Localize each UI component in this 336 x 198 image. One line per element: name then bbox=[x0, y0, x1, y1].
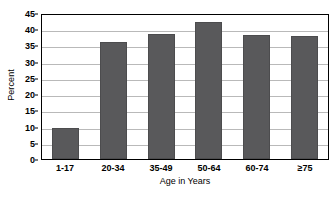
x-axis-tick-label: 35-49 bbox=[137, 162, 185, 176]
y-axis-title-text: Percent bbox=[6, 69, 16, 101]
y-axis-tick-mark bbox=[35, 143, 38, 144]
bar-slot bbox=[185, 15, 233, 159]
bar-slot bbox=[137, 15, 185, 159]
bar[interactable] bbox=[195, 22, 222, 159]
bar[interactable] bbox=[243, 35, 270, 159]
y-axis-tick-mark bbox=[35, 14, 38, 15]
y-axis-tick-mark bbox=[35, 127, 38, 128]
x-axis-tick-label: ≥75 bbox=[281, 162, 329, 176]
x-axis-tick-label: 1-17 bbox=[41, 162, 89, 176]
y-axis-tick-mark bbox=[35, 95, 38, 96]
y-axis-tick-mark bbox=[35, 62, 38, 63]
y-axis-tick-mark bbox=[35, 78, 38, 79]
bar[interactable] bbox=[148, 34, 175, 159]
y-axis-tick-label: 40 bbox=[25, 26, 35, 35]
x-axis-title: Age in Years bbox=[41, 176, 329, 186]
bar-slot bbox=[280, 15, 328, 159]
bar-slot bbox=[42, 15, 90, 159]
x-axis-tick-label: 50-64 bbox=[185, 162, 233, 176]
y-axis-tick-label: 45 bbox=[25, 10, 35, 19]
y-axis-tick-label: 15 bbox=[25, 107, 35, 116]
plot-area bbox=[41, 14, 329, 160]
bar-slot bbox=[233, 15, 281, 159]
y-axis-tick-label: 30 bbox=[25, 58, 35, 67]
y-axis-tick-mark bbox=[35, 111, 38, 112]
bar-chart-figure: Percent 051015202530354045 1-1720-3435-4… bbox=[0, 0, 336, 198]
y-axis-tick-labels: 051015202530354045 bbox=[18, 14, 38, 160]
x-axis-tick-label: 60-74 bbox=[233, 162, 281, 176]
y-axis-tick-label: 10 bbox=[25, 123, 35, 132]
bar[interactable] bbox=[100, 42, 127, 159]
y-axis-tick-label: 35 bbox=[25, 42, 35, 51]
bar[interactable] bbox=[291, 36, 318, 159]
x-axis-tick-label: 20-34 bbox=[89, 162, 137, 176]
bar[interactable] bbox=[52, 128, 79, 159]
x-axis-tick-labels: 1-1720-3435-4950-6460-74≥75 bbox=[41, 162, 329, 176]
y-axis-tick-mark bbox=[35, 30, 38, 31]
y-axis-tick-label: 25 bbox=[25, 74, 35, 83]
bars-container bbox=[42, 15, 328, 159]
y-axis-tick-mark bbox=[35, 46, 38, 47]
bar-slot bbox=[90, 15, 138, 159]
y-axis-tick-label: 20 bbox=[25, 91, 35, 100]
y-axis-tick-mark bbox=[35, 160, 38, 161]
